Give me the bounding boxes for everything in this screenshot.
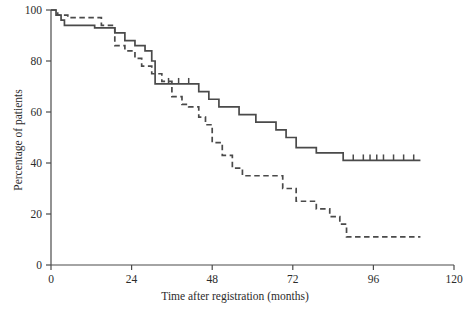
y-tick-label: 80 [31,55,43,67]
y-tick-label: 60 [31,106,43,118]
x-tick-label: 72 [287,273,299,285]
y-tick-label: 20 [31,208,43,220]
y-tick-label: 0 [36,259,42,271]
x-axis: 024487296120 [48,265,463,285]
series-solid-curve [51,10,420,160]
x-tick-label: 120 [445,273,463,285]
chart-canvas: 020406080100 024487296120 Time after reg… [0,0,469,311]
x-tick-label: 0 [48,273,54,285]
data-series-group [51,10,420,237]
x-tick-label: 48 [206,273,218,285]
x-tick-label: 24 [126,273,138,285]
y-axis: 020406080100 [25,4,51,271]
x-axis-title: Time after registration (months) [161,290,309,303]
y-axis-title: Percentage of patients [12,89,25,191]
kaplan-meier-chart: 020406080100 024487296120 Time after reg… [0,0,469,311]
y-tick-label: 100 [25,4,43,16]
y-tick-label: 40 [31,157,43,169]
x-tick-label: 96 [368,273,380,285]
series-dashed-curve [51,10,420,237]
